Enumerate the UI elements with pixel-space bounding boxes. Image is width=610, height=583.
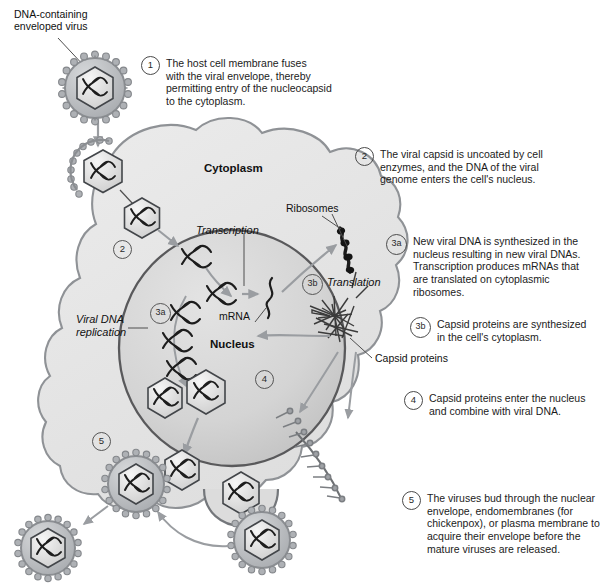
step-callout-5: 5 The viruses bud through the nuclear en… <box>402 492 610 556</box>
marker-step-3a-nucleus: 3a <box>150 303 171 324</box>
step-text-2: The viral capsid is uncoated by cell enz… <box>380 148 543 186</box>
step-2-line-3: genome enters the cell's nucleus. <box>380 173 543 186</box>
step-2-line-2: enzymes, and the DNA of the viral <box>380 161 543 174</box>
step-3b-line-1: Capsid proteins are synthesized <box>437 318 586 331</box>
step-number-4: 4 <box>404 391 423 410</box>
transcription-label: Transcription <box>196 224 259 236</box>
step-text-5: The viruses bud through the nuclear enve… <box>427 492 600 556</box>
marker-step-5-cell: 5 <box>92 432 111 451</box>
step-callout-2: 2 The viral capsid is uncoated by cell e… <box>355 148 605 186</box>
step-4-line-2: and combine with viral DNA. <box>429 405 585 418</box>
step-5-line-4: acquire their envelope before the <box>427 530 600 543</box>
step-4-line-1: Capsid proteins enter the nucleus <box>429 392 585 405</box>
step-3a-line-1: New viral DNA is synthesized in the <box>413 235 581 248</box>
viral-dna-replication-line-2: replication <box>76 326 142 339</box>
step-text-4: Capsid proteins enter the nucleus and co… <box>429 392 585 417</box>
virus-caption-line-2: enveloped virus <box>14 20 124 32</box>
step-3a-line-2: nucleus resulting in new viral DNAs. <box>413 248 581 261</box>
step-number-2: 2 <box>355 147 374 166</box>
virus-replication-diagram: DNA-containing enveloped virus Cytoplasm… <box>0 0 610 583</box>
virus-caption-line-1: DNA-containing <box>14 8 124 20</box>
step-5-line-3: chickenpox), or plasma membrane to <box>427 517 600 530</box>
step-callout-3b: 3b Capsid proteins are synthesized in th… <box>410 318 610 343</box>
virus-particle-released <box>15 514 81 581</box>
step-1-line-2: with the viral envelope, thereby <box>166 70 332 83</box>
step-callout-3a: 3a New viral DNA is synthesized in the n… <box>386 235 608 299</box>
viral-dna-replication-label: Viral DNA replication <box>76 313 142 339</box>
step-3a-line-4: are translated on cytoplasmic <box>413 273 581 286</box>
step-3a-line-5: ribosomes. <box>413 286 581 299</box>
step-5-line-5: mature viruses are released. <box>427 543 600 556</box>
step-1-line-1: The host cell membrane fuses <box>166 57 332 70</box>
step-5-line-1: The viruses bud through the nuclear <box>427 492 600 505</box>
virion-release-arrow <box>84 506 108 524</box>
step-callout-4: 4 Capsid proteins enter the nucleus and … <box>404 392 610 417</box>
step-1-line-4: to the cytoplasm. <box>166 95 332 108</box>
nucleus-label: Nucleus <box>210 338 255 350</box>
step-1-line-3: permitting entry of the nucleocapsid <box>166 82 332 95</box>
marker-step-3b-cytoplasm: 3b <box>302 274 323 295</box>
step-5-line-2: envelope, endomembranes (for <box>427 505 600 518</box>
ribosomes-label: Ribosomes <box>286 202 339 214</box>
step-number-1: 1 <box>141 56 160 75</box>
step-number-3a: 3a <box>386 234 407 255</box>
mrna-label: mRNA <box>219 310 250 322</box>
step-callout-1: 1 The host cell membrane fuses with the … <box>141 57 351 108</box>
step-text-3a: New viral DNA is synthesized in the nucl… <box>413 235 581 299</box>
marker-step-2-cytoplasm: 2 <box>113 240 132 259</box>
virus-particle-extracellular-top <box>59 51 132 125</box>
translation-label: Translation <box>327 276 381 288</box>
step-number-3b: 3b <box>410 317 431 338</box>
step-3b-line-2: in the cell's cytoplasm. <box>437 331 586 344</box>
step-text-3b: Capsid proteins are synthesized in the c… <box>437 318 586 343</box>
cytoplasm-label: Cytoplasm <box>204 162 263 174</box>
step-2-line-1: The viral capsid is uncoated by cell <box>380 148 543 161</box>
step-text-1: The host cell membrane fuses with the vi… <box>166 57 332 108</box>
capsid-to-nucleus-arrow <box>258 335 330 336</box>
step-3a-line-3: Transcription produces mRNAs that <box>413 260 581 273</box>
virus-caption: DNA-containing enveloped virus <box>14 8 124 33</box>
viral-dna-replication-line-1: Viral DNA <box>76 313 142 326</box>
capsid-proteins-label: Capsid proteins <box>375 352 448 364</box>
step-number-5: 5 <box>402 491 421 510</box>
marker-step-4-nucleus: 4 <box>255 370 274 389</box>
